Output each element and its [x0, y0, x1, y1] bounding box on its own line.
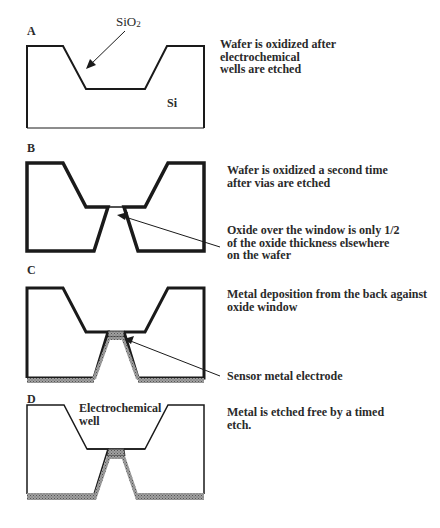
- panel-letter-b: B: [27, 141, 35, 156]
- panel-a-description: Wafer is oxidized after electrochemical …: [220, 38, 336, 76]
- panel-a-wafer: [27, 31, 204, 128]
- panel-c-description: Metal deposition from the back against o…: [227, 288, 427, 313]
- sio2-label: SiO2: [116, 16, 141, 31]
- si-label: Si: [167, 97, 177, 110]
- process-diagram: [0, 0, 440, 528]
- panel-letter-a: A: [27, 24, 36, 39]
- electrode-callout-line: [128, 340, 220, 376]
- panel-b-wafer: [27, 163, 220, 251]
- panel-letter-c: C: [27, 263, 36, 278]
- electrochemical-well-label: Electrochemical well: [79, 402, 161, 427]
- panel-letter-d: D: [27, 392, 36, 407]
- panel-c-wafer: [27, 288, 220, 383]
- panel-c-callout: Sensor metal electrode: [227, 370, 343, 383]
- panel-b-description: Wafer is oxidized a second time after vi…: [227, 164, 388, 189]
- panel-b-callout: Oxide over the window is only 1/2 of the…: [227, 224, 399, 262]
- panel-d-description: Metal is etched free by a timed etch.: [227, 406, 384, 431]
- sio2-arrow: [88, 31, 125, 67]
